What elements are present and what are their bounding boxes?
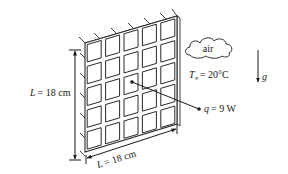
grid-cell [142, 111, 156, 133]
left-hatch-marks [80, 53, 85, 156]
grid-cell [106, 122, 120, 144]
grid-cell [106, 57, 120, 79]
grid-cell [142, 68, 156, 90]
grid-cell [161, 84, 175, 106]
grid-cell [106, 79, 120, 101]
grid-cell [87, 40, 101, 62]
grid-cell [106, 35, 120, 57]
grid-cell [87, 128, 101, 150]
grid-cell [161, 41, 175, 63]
grid-cell [87, 62, 101, 84]
air-label: air [203, 43, 214, 54]
gravity-label: g [262, 71, 267, 82]
height-dimension [69, 50, 81, 160]
grid-cell [124, 95, 138, 117]
heated-plate-diagram: air T∞= 20°C g L= 18 cm L= 18 cm q= 9 W [0, 0, 288, 174]
heat-rate-label: q= 9 W [204, 103, 236, 114]
grid-cell [142, 24, 156, 46]
height-label: L= 18 cm [29, 87, 71, 98]
grid-cell [124, 51, 138, 73]
grid-cell [87, 106, 101, 128]
grid-cell [161, 62, 175, 84]
width-label: L= 18 cm [94, 148, 137, 171]
grid-cell [124, 117, 138, 139]
grid-cell [106, 100, 120, 122]
grid-cell [124, 30, 138, 52]
grid-cell [142, 46, 156, 68]
grid-cell [161, 106, 175, 128]
leader-end-dot-icon [197, 107, 201, 111]
ambient-temperature-label: T∞= 20°C [189, 69, 229, 81]
grid-cell [161, 19, 175, 41]
grid-cell [142, 90, 156, 112]
heat-source-dot-icon [130, 80, 134, 84]
grid-cell [87, 84, 101, 106]
